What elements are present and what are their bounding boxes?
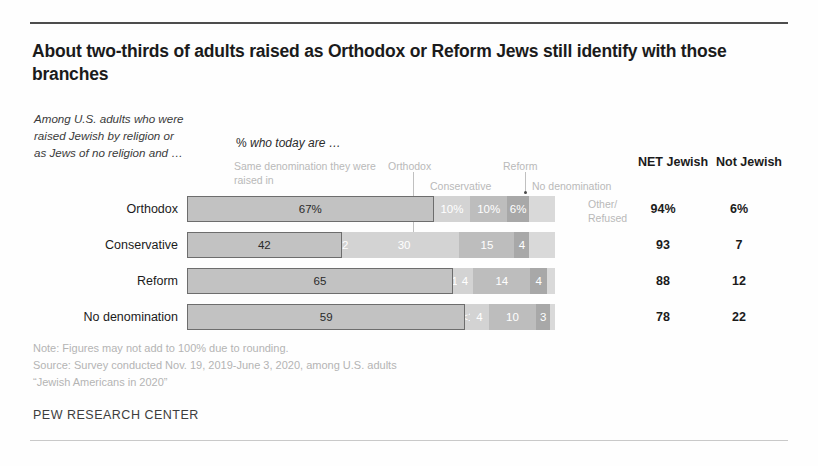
percent-header-italic: who today are … — [250, 136, 341, 150]
percent-symbol: % — [236, 136, 247, 150]
table-row: Orthodox67%10%10%6%94%6% — [0, 196, 818, 222]
bar-segment-no-denomination: 3 — [536, 304, 550, 330]
bar-segment-reform: 10% — [470, 196, 507, 222]
stacked-bar: 59<14103 — [187, 304, 555, 330]
footnote-report: “Jewish Americans in 2020” — [33, 374, 168, 391]
not-jewish-value: 6% — [710, 196, 768, 222]
net-jewish-value: 94% — [632, 196, 694, 222]
bar-segment-other-refused — [547, 268, 555, 294]
not-jewish-value: 12 — [710, 268, 768, 294]
footnote-note: Note: Figures may not add to 100% due to… — [33, 340, 289, 357]
bottom-rule — [30, 440, 788, 441]
row-label-reform: Reform — [28, 268, 178, 294]
table-row: No denomination59<141037822 — [0, 304, 818, 330]
legend-label-conservative: Conservative — [430, 180, 491, 194]
page-title: About two-thirds of adults raised as Ort… — [32, 40, 774, 87]
leader-line-reform-vertical — [525, 172, 526, 192]
not-jewish-value: 22 — [710, 304, 768, 330]
bar-segment-no-denomination: 4 — [530, 268, 546, 294]
net-jewish-value: 93 — [632, 232, 694, 258]
pew-research-center-footer: PEW RESEARCH CENTER — [33, 408, 199, 422]
bar-segment-other-refused — [529, 232, 555, 258]
legend-label-orthodox: Orthodox — [388, 160, 431, 174]
bar-segment-conservative: 4 — [457, 268, 473, 294]
row-label-conservative: Conservative — [28, 232, 178, 258]
bar-segment-orthodox: 2 — [342, 232, 349, 258]
footnote-source: Source: Survey conducted Nov. 19, 2019-J… — [33, 357, 397, 374]
stacked-bar: 42230154 — [187, 232, 555, 258]
stacked-bar: 6514144 — [187, 268, 555, 294]
chart-subnote: Among U.S. adults who were raised Jewish… — [34, 110, 184, 161]
row-label-orthodox: Orthodox — [28, 196, 178, 222]
bar-segment-reform: 10 — [489, 304, 536, 330]
row-label-no-denomination: No denomination — [28, 304, 178, 330]
legend-label-same-denomination: Same denomination they were raised in — [234, 160, 384, 188]
legend-label-reform: Reform — [503, 160, 537, 174]
percent-header: % who today are … — [236, 136, 341, 150]
net-jewish-value: 78 — [632, 304, 694, 330]
table-row: Conservative42230154937 — [0, 232, 818, 258]
table-row: Reform65141448812 — [0, 268, 818, 294]
bar-segment-conservative: 10% — [434, 196, 471, 222]
bar-segment-same: 59 — [187, 304, 465, 330]
not-jewish-value: 7 — [710, 232, 768, 258]
bar-segment-conservative: 30 — [349, 232, 459, 258]
leader-dot-reform — [524, 191, 527, 194]
column-header-net-jewish: NET Jewish — [638, 155, 708, 169]
bar-segment-same: 42 — [187, 232, 342, 258]
bar-segment-other-refused — [529, 196, 555, 222]
column-header-not-jewish: Not Jewish — [716, 155, 782, 169]
bar-segment-same: 67% — [187, 196, 434, 222]
bar-segment-no-denomination: 6% — [507, 196, 529, 222]
net-jewish-value: 88 — [632, 268, 694, 294]
stacked-bar: 67%10%10%6% — [187, 196, 555, 222]
bar-segment-other-refused — [550, 304, 555, 330]
bar-segment-reform: 14 — [473, 268, 530, 294]
bar-segment-reform: 15 — [459, 232, 514, 258]
legend-label-no-denomination: No denomination — [532, 180, 611, 194]
chart-canvas: About two-thirds of adults raised as Ort… — [0, 0, 818, 466]
bar-segment-conservative: 4 — [470, 304, 489, 330]
bar-segment-no-denomination: 4 — [514, 232, 529, 258]
top-rule — [30, 22, 788, 24]
bar-segment-same: 65 — [187, 268, 453, 294]
